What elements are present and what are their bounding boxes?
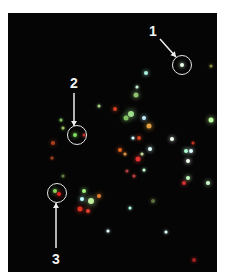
fluorescent-spot xyxy=(136,86,139,89)
fluorescent-spot xyxy=(51,157,54,160)
fluorescent-spot xyxy=(137,136,141,140)
fluorescent-spot xyxy=(98,105,101,108)
fluorescent-spot xyxy=(80,197,84,201)
fluorescent-spot xyxy=(51,141,55,145)
fluorescent-spot xyxy=(134,93,139,98)
fluorescent-spot xyxy=(165,231,168,234)
annotation-label-2: 2 xyxy=(70,75,78,91)
fluorescent-spot xyxy=(133,175,136,178)
fluorescent-spot xyxy=(210,65,213,68)
annotation-arrows xyxy=(8,13,217,272)
fluorescent-spot xyxy=(118,148,122,152)
fluorescent-spot xyxy=(209,118,214,123)
fluorescent-spot xyxy=(124,153,127,156)
fluorescent-spot xyxy=(192,142,195,145)
fluorescent-spot xyxy=(107,230,110,233)
fluorescent-spot xyxy=(143,169,146,172)
fluorescent-spot xyxy=(184,149,188,153)
fluorescent-spot xyxy=(186,176,190,180)
fluorescent-spot xyxy=(186,159,190,163)
fluorescent-spot xyxy=(62,127,65,130)
fluorescent-spot xyxy=(144,71,148,75)
fluorescent-spot xyxy=(126,170,129,173)
fluorescent-spot xyxy=(78,207,83,212)
fluorescent-spot xyxy=(170,137,174,141)
fluorescent-spot xyxy=(124,116,129,121)
fluorescent-spot xyxy=(60,119,63,122)
annotation-circle-3 xyxy=(47,183,67,203)
fluorescent-spot xyxy=(147,124,152,129)
arrowhead-icon xyxy=(53,203,59,208)
annotation-circle-2 xyxy=(67,125,87,145)
fluorescent-spot xyxy=(141,153,144,156)
fluorescent-spot xyxy=(132,137,135,140)
fluorescent-spot xyxy=(128,111,134,117)
fluorescent-spot xyxy=(142,116,146,120)
annotation-label-1: 1 xyxy=(149,23,157,39)
fluorescence-micrograph: 123 xyxy=(8,13,217,272)
fluorescent-spot xyxy=(148,147,152,151)
fluorescent-spot xyxy=(136,157,141,162)
fluorescent-spot xyxy=(182,181,186,185)
fluorescent-spot xyxy=(189,149,193,153)
fluorescent-spot xyxy=(206,181,210,185)
annotation-circle-1 xyxy=(172,55,192,75)
annotation-label-3: 3 xyxy=(52,251,60,267)
fluorescent-spot xyxy=(82,189,86,193)
fluorescent-spot xyxy=(151,199,155,203)
fluorescent-spot xyxy=(97,194,101,198)
fluorescent-spot xyxy=(113,107,117,111)
fluorescent-spot xyxy=(88,198,94,204)
fluorescent-spot xyxy=(192,258,196,262)
fluorescent-spot xyxy=(62,175,65,178)
fluorescent-spot xyxy=(86,209,90,213)
fluorescent-spot xyxy=(129,207,132,210)
